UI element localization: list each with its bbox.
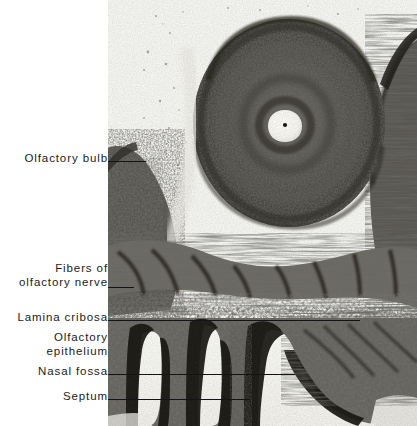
micrograph-svg: [108, 0, 417, 426]
label-lamina-cribosa: Lamina cribosa: [6, 311, 108, 325]
label-fibers-of-olfactory-nerve: Fibers of olfactory nerve: [6, 262, 108, 289]
figure-plate: Olfactory bulb Fibers of olfactory nerve…: [0, 0, 417, 426]
leader-nasal-fossa: [108, 374, 295, 375]
label-nasal-fossa: Nasal fossa: [18, 365, 108, 379]
label-septum: Septum: [40, 390, 108, 404]
leader-septum: [108, 399, 250, 400]
micrograph-content: [108, 0, 417, 426]
photo-grain-overlay: [108, 0, 417, 426]
label-olfactory-bulb: Olfactory bulb: [14, 152, 108, 166]
leader-lamina-cribosa: [108, 320, 360, 321]
label-olfactory-epithelium: Olfactory epithelium: [14, 331, 108, 358]
leader-olfactory-bulb: [108, 161, 146, 162]
leader-fibers-of-olfactory-nerve: [108, 287, 134, 288]
micrograph-image: [108, 0, 417, 426]
